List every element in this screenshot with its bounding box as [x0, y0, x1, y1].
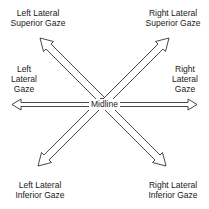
arrow-up-right — [101, 38, 169, 106]
label-left-lateral-superior-gaze: Left Lateral Superior Gaze — [8, 8, 68, 28]
label-left-lateral-gaze: Left Lateral Gaze — [8, 64, 40, 94]
label-right-lateral-gaze: Right Lateral Gaze — [167, 64, 203, 94]
arrow-up-left — [40, 38, 108, 106]
label-right-lateral-inferior-gaze: Right Lateral Inferior Gaze — [141, 180, 205, 200]
label-right-lateral-superior-gaze: Right Lateral Superior Gaze — [141, 8, 205, 28]
midline-label: Midline — [89, 99, 120, 110]
label-left-lateral-inferior-gaze: Left Lateral Inferior Gaze — [10, 180, 70, 200]
gaze-directions-diagram: Midline Left Lateral Superior Gaze Right… — [0, 0, 209, 209]
